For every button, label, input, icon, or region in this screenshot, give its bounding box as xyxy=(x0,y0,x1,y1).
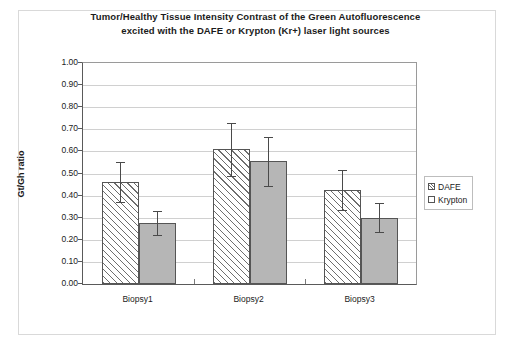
x-axis-tick-label-biopsy2: Biopsy2 xyxy=(233,294,263,304)
plot-area xyxy=(82,62,417,285)
chart-title: Tumor/Healthy Tissue Intensity Contrast … xyxy=(0,10,511,38)
y-axis-tick-label: 0.10 xyxy=(44,256,78,266)
error-bar-cap-lower xyxy=(338,210,347,211)
y-axis-tick-label: 1.00 xyxy=(44,57,78,67)
gridline xyxy=(83,107,416,108)
error-bar-cap-upper xyxy=(116,162,125,163)
x-axis-tick-label-biopsy3: Biopsy3 xyxy=(344,294,374,304)
error-bar-cap-upper xyxy=(227,123,236,124)
x-axis-tick-label-biopsy1: Biopsy1 xyxy=(122,294,152,304)
legend-item-dafe: DAFE xyxy=(428,180,467,193)
error-bar-cap-upper xyxy=(153,211,162,212)
y-axis-tick-label: 0.60 xyxy=(44,145,78,155)
error-bar-cap-lower xyxy=(375,232,384,233)
error-bar-cap-upper xyxy=(338,170,347,171)
error-bar-line xyxy=(120,162,121,202)
gridline xyxy=(83,151,416,152)
gridline xyxy=(83,85,416,86)
y-axis-tick-label: 0.80 xyxy=(44,101,78,111)
y-axis-tick-label: 0.50 xyxy=(44,168,78,178)
error-bar-line xyxy=(379,203,380,232)
error-bar-cap-lower xyxy=(153,235,162,236)
x-axis-separator xyxy=(194,279,195,284)
error-bar-cap-lower xyxy=(264,186,273,187)
legend-swatch-krypton-icon xyxy=(428,196,435,203)
error-bar-line xyxy=(268,137,269,186)
chart-screenshot: Tumor/Healthy Tissue Intensity Contrast … xyxy=(0,0,511,346)
legend-label-dafe: DAFE xyxy=(438,182,461,192)
error-bar-line xyxy=(231,123,232,176)
x-axis-separator xyxy=(305,279,306,284)
error-bar-cap-lower xyxy=(227,176,236,177)
chart-title-line-1: Tumor/Healthy Tissue Intensity Contrast … xyxy=(0,10,511,24)
chart-legend: DAFE Krypton xyxy=(424,176,473,210)
y-axis-tick-label: 0.20 xyxy=(44,234,78,244)
y-axis-tick-label: 0.70 xyxy=(44,123,78,133)
y-axis-tick-label: 0.90 xyxy=(44,79,78,89)
y-axis-title: Gt/Gh ratio xyxy=(13,62,27,285)
y-axis-tick-label: 0.40 xyxy=(44,190,78,200)
error-bar-line xyxy=(342,170,343,210)
legend-item-krypton: Krypton xyxy=(428,193,467,206)
chart-title-line-2: excited with the DAFE or Krypton (Kr+) l… xyxy=(0,24,511,38)
y-axis-tick-label: 0.30 xyxy=(44,212,78,222)
y-axis-title-label: Gt/Gh ratio xyxy=(15,150,25,197)
gridline xyxy=(83,129,416,130)
legend-label-krypton: Krypton xyxy=(438,195,467,205)
error-bar-cap-lower xyxy=(116,202,125,203)
error-bar-line xyxy=(157,211,158,235)
y-axis-tick-labels: 1.000.900.800.700.600.500.400.300.200.10… xyxy=(40,62,78,285)
error-bar-cap-upper xyxy=(264,137,273,138)
legend-swatch-dafe-icon xyxy=(428,183,435,190)
error-bar-cap-upper xyxy=(375,203,384,204)
y-axis-tick-label: 0.00 xyxy=(44,278,78,288)
